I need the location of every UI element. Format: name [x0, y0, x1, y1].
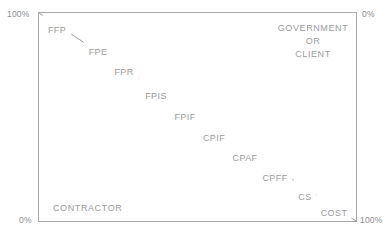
- axis-label-bottom-left: 0%: [19, 215, 32, 225]
- zone-government-line-2: OR: [272, 35, 354, 48]
- contract-type-label: FPIS: [145, 91, 167, 101]
- diagonal-line-segment: [39, 13, 43, 15]
- contract-type-label: CPIF: [203, 133, 225, 143]
- contract-type-label: FPR: [114, 67, 133, 77]
- zone-label-government: GOVERNMENT OR CLIENT: [272, 22, 354, 61]
- axis-label-bottom-right: 100%: [360, 215, 383, 225]
- contract-type-label: CPFF: [262, 173, 287, 183]
- contract-type-label: COST: [321, 208, 348, 218]
- zone-government-line-3: CLIENT: [272, 48, 354, 61]
- diagonal-line-segment: [71, 34, 83, 42]
- contract-type-label: CPAF: [233, 153, 258, 163]
- contract-type-label: FFP: [48, 25, 66, 35]
- contract-type-label: CS: [298, 192, 311, 202]
- risk-continuum-diagram: 100% 0% 0% 100% GOVERNMENT OR CLIENT CON…: [0, 0, 391, 241]
- axis-label-top-right: 0%: [362, 9, 375, 19]
- axis-label-top-left: 100%: [7, 9, 30, 19]
- zone-label-contractor: CONTRACTOR: [53, 203, 122, 213]
- diagonal-line-segment: [292, 179, 293, 180]
- contract-type-label: FPIF: [174, 112, 195, 122]
- zone-government-line-1: GOVERNMENT: [272, 22, 354, 35]
- contract-type-label: FPE: [89, 47, 108, 57]
- diagonal-line-segment: [351, 218, 356, 221]
